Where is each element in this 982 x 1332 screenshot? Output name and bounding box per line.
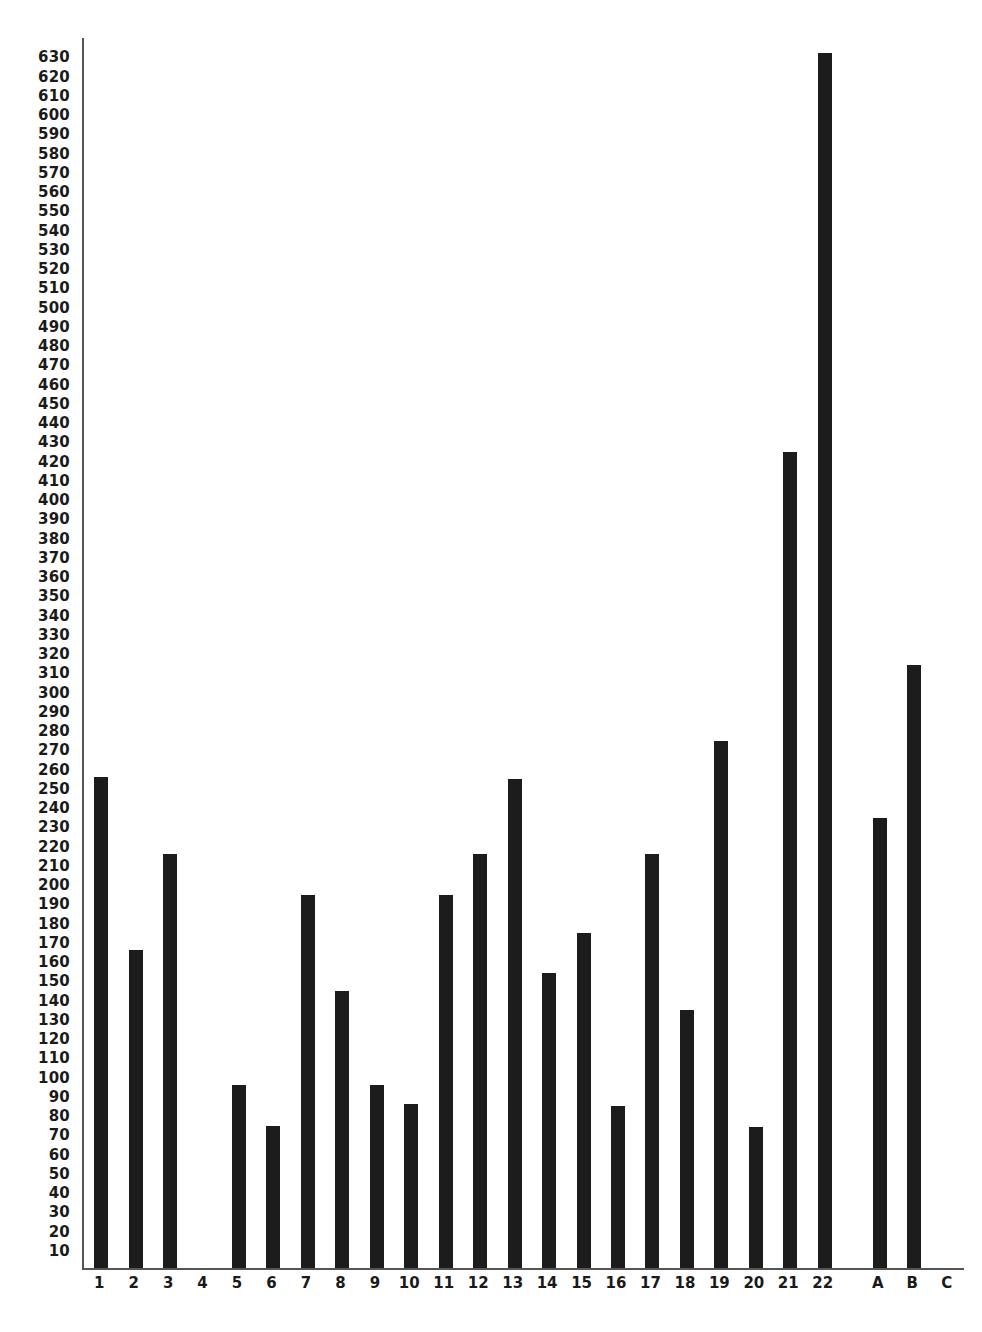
y-axis: 6306206106005905805705605505405305205105…	[0, 0, 82, 1332]
x-axis-tick-label: B	[907, 1276, 918, 1291]
y-axis-tick-label: 50	[49, 1166, 70, 1181]
bar-19[interactable]	[714, 741, 728, 1268]
y-axis-tick-label: 180	[38, 916, 70, 931]
y-axis-tick-label: 510	[38, 281, 70, 296]
y-axis-tick-label: 600	[38, 108, 70, 123]
bar-2[interactable]	[129, 950, 143, 1268]
bar-12[interactable]	[473, 854, 487, 1268]
x-axis-tick-label: 15	[571, 1276, 592, 1291]
y-axis-tick-label: 20	[49, 1224, 70, 1239]
bar-1[interactable]	[94, 777, 108, 1268]
x-axis-tick-label: 22	[812, 1276, 833, 1291]
y-axis-tick-label: 280	[38, 724, 70, 739]
y-axis-tick-label: 10	[49, 1243, 70, 1258]
x-axis-tick-label: 12	[468, 1276, 489, 1291]
y-axis-tick-label: 270	[38, 743, 70, 758]
y-axis-tick-label: 590	[38, 127, 70, 142]
y-axis-tick-label: 60	[49, 1147, 70, 1162]
y-axis-tick-label: 350	[38, 589, 70, 604]
y-axis-tick-label: 360	[38, 570, 70, 585]
y-axis-tick-label: 100	[38, 1070, 70, 1085]
bar-A[interactable]	[873, 818, 887, 1268]
y-axis-tick-label: 470	[38, 358, 70, 373]
bar-B[interactable]	[907, 665, 921, 1268]
y-axis-tick-label: 520	[38, 262, 70, 277]
bar-6[interactable]	[266, 1126, 280, 1268]
y-axis-tick-label: 220	[38, 839, 70, 854]
x-axis-tick-label: 5	[232, 1276, 242, 1291]
x-axis-tick-label: 6	[266, 1276, 276, 1291]
bars-layer	[84, 38, 964, 1268]
x-axis-tick-label: 8	[335, 1276, 345, 1291]
y-axis-tick-label: 370	[38, 550, 70, 565]
x-axis-tick-label: 19	[709, 1276, 730, 1291]
y-axis-tick-label: 200	[38, 878, 70, 893]
x-axis: 12345678910111213141516171819202122ABC	[82, 1276, 964, 1316]
x-axis-tick-label: 11	[433, 1276, 454, 1291]
y-axis-tick-label: 340	[38, 608, 70, 623]
y-axis-tick-label: 580	[38, 146, 70, 161]
y-axis-tick-label: 130	[38, 1012, 70, 1027]
bar-18[interactable]	[680, 1010, 694, 1268]
x-axis-tick-label: C	[941, 1276, 952, 1291]
y-axis-tick-label: 300	[38, 685, 70, 700]
bar-8[interactable]	[335, 991, 349, 1268]
y-axis-tick-label: 80	[49, 1109, 70, 1124]
x-axis-tick-label: A	[872, 1276, 884, 1291]
bar-21[interactable]	[783, 452, 797, 1268]
y-axis-tick-label: 210	[38, 858, 70, 873]
y-axis-tick-label: 140	[38, 993, 70, 1008]
y-axis-tick-label: 240	[38, 801, 70, 816]
y-axis-tick-label: 400	[38, 493, 70, 508]
bar-3[interactable]	[163, 854, 177, 1268]
bar-7[interactable]	[301, 895, 315, 1268]
y-axis-tick-label: 490	[38, 319, 70, 334]
y-axis-tick-label: 390	[38, 512, 70, 527]
bar-15[interactable]	[577, 933, 591, 1268]
x-axis-tick-label: 9	[370, 1276, 380, 1291]
x-axis-tick-label: 7	[301, 1276, 311, 1291]
y-axis-tick-label: 150	[38, 974, 70, 989]
y-axis-tick-label: 450	[38, 396, 70, 411]
bar-13[interactable]	[508, 779, 522, 1268]
bar-11[interactable]	[439, 895, 453, 1268]
y-axis-tick-label: 410	[38, 473, 70, 488]
y-axis-tick-label: 540	[38, 223, 70, 238]
plot-area	[82, 38, 964, 1270]
y-axis-tick-label: 500	[38, 300, 70, 315]
bar-9[interactable]	[370, 1085, 384, 1268]
y-axis-tick-label: 460	[38, 377, 70, 392]
y-axis-tick-label: 230	[38, 820, 70, 835]
y-axis-tick-label: 620	[38, 69, 70, 84]
y-axis-tick-label: 190	[38, 897, 70, 912]
x-axis-tick-label: 2	[128, 1276, 138, 1291]
x-axis-tick-label: 4	[197, 1276, 207, 1291]
y-axis-tick-label: 330	[38, 627, 70, 642]
bar-14[interactable]	[542, 973, 556, 1268]
x-axis-tick-label: 14	[537, 1276, 558, 1291]
y-axis-tick-label: 110	[38, 1051, 70, 1066]
y-axis-tick-label: 480	[38, 339, 70, 354]
y-axis-tick-label: 90	[49, 1089, 70, 1104]
y-axis-tick-label: 250	[38, 781, 70, 796]
x-axis-tick-label: 20	[743, 1276, 764, 1291]
y-axis-tick-label: 440	[38, 416, 70, 431]
y-axis-tick-label: 430	[38, 435, 70, 450]
x-axis-tick-label: 10	[399, 1276, 420, 1291]
bar-17[interactable]	[645, 854, 659, 1268]
x-axis-tick-label: 21	[778, 1276, 799, 1291]
y-axis-tick-label: 170	[38, 935, 70, 950]
bar-22[interactable]	[818, 53, 832, 1268]
y-axis-tick-label: 40	[49, 1186, 70, 1201]
y-axis-tick-label: 570	[38, 165, 70, 180]
bar-5[interactable]	[232, 1085, 246, 1268]
x-axis-tick-label: 3	[163, 1276, 173, 1291]
y-axis-tick-label: 310	[38, 666, 70, 681]
x-axis-tick-label: 13	[502, 1276, 523, 1291]
bar-16[interactable]	[611, 1106, 625, 1268]
y-axis-tick-label: 560	[38, 185, 70, 200]
bar-10[interactable]	[404, 1104, 418, 1268]
y-axis-tick-label: 290	[38, 704, 70, 719]
x-axis-tick-label: 1	[94, 1276, 104, 1291]
bar-20[interactable]	[749, 1127, 763, 1268]
